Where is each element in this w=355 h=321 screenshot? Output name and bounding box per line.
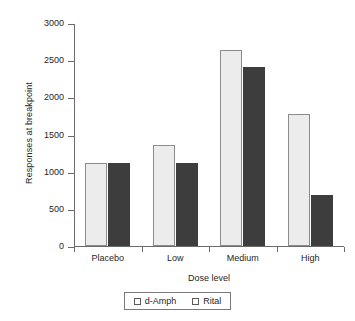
bar-low-d-amph	[153, 145, 175, 246]
legend-swatch-icon	[134, 298, 141, 305]
x-tick	[142, 247, 143, 252]
x-tick	[344, 247, 345, 252]
y-tick: 1000	[68, 173, 74, 174]
x-category-label-high: High	[270, 253, 350, 263]
y-tick: 2500	[68, 61, 74, 62]
y-tick-label: 2500	[44, 55, 64, 65]
y-axis-title: Responses at breakpoint	[24, 38, 34, 228]
legend-box: d-AmphRital	[124, 292, 232, 310]
plot-area: 050010001500200025003000	[74, 24, 344, 247]
legend-label: d-Amph	[145, 296, 177, 306]
y-tick-label: 500	[49, 204, 64, 214]
y-tick: 2000	[68, 98, 74, 99]
x-tick	[209, 247, 210, 252]
legend-label: Rital	[203, 296, 221, 306]
bar-placebo-d-amph	[85, 163, 107, 246]
y-axis-line	[74, 24, 75, 247]
bar-low-rital	[176, 163, 198, 246]
y-tick-label: 2000	[44, 92, 64, 102]
legend-swatch-icon	[192, 298, 199, 305]
legend: d-AmphRital	[0, 292, 355, 310]
bar-high-d-amph	[288, 114, 310, 246]
x-tick	[277, 247, 278, 252]
y-tick: 1500	[68, 136, 74, 137]
bar-medium-d-amph	[220, 50, 242, 246]
bar-chart: Responses at breakpoint 0500100015002000…	[0, 0, 355, 321]
y-tick-label: 1500	[44, 130, 64, 140]
bar-placebo-rital	[108, 163, 130, 246]
bar-medium-rital	[243, 67, 265, 246]
x-axis-title: Dose level	[74, 273, 344, 283]
y-tick: 3000	[68, 24, 74, 25]
y-tick-label: 1000	[44, 167, 64, 177]
y-tick: 500	[68, 210, 74, 211]
y-tick-label: 0	[59, 241, 64, 251]
legend-item-d-amph[interactable]: d-Amph	[134, 296, 177, 306]
y-tick-label: 3000	[44, 18, 64, 28]
bar-high-rital	[311, 195, 333, 246]
legend-item-rital[interactable]: Rital	[192, 296, 221, 306]
x-tick	[74, 247, 75, 252]
